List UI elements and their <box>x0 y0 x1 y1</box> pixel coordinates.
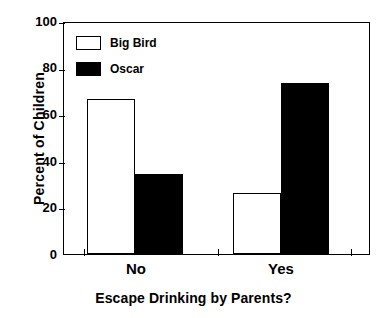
y-axis-tick-labels: 100 80 60 40 20 0 <box>21 0 57 318</box>
bar-oscar-no <box>135 174 183 254</box>
legend-label-oscar: Oscar <box>110 62 144 76</box>
x-tick-mark-left <box>84 249 85 256</box>
y-tick-mark-60 <box>59 116 65 117</box>
bar-bigbird-no <box>87 99 135 254</box>
open-square-icon <box>76 36 101 50</box>
legend-item-oscar: Oscar <box>76 58 157 80</box>
x-tick-mark-right <box>351 249 352 256</box>
bar-chart: Percent of Children 100 80 60 40 20 0 Bi <box>0 0 387 318</box>
y-tick-label-20: 20 <box>23 201 57 214</box>
x-tick-mark-mid <box>218 249 219 256</box>
y-tick-mark-80 <box>59 70 65 71</box>
y-tick-label-40: 40 <box>23 155 57 168</box>
bar-oscar-yes <box>281 83 329 254</box>
y-tick-mark-40 <box>59 163 65 164</box>
y-tick-label-60: 60 <box>23 108 57 121</box>
y-tick-mark-20 <box>59 209 65 210</box>
x-tick-label-no: No <box>96 260 176 277</box>
filled-square-icon <box>76 62 101 76</box>
y-tick-label-80: 80 <box>23 61 57 74</box>
legend: Big Bird Oscar <box>76 32 157 84</box>
x-axis-title: Escape Drinking by Parents? <box>0 290 387 306</box>
plot-area: Big Bird Oscar <box>63 22 370 255</box>
y-tick-label-0: 0 <box>23 248 57 261</box>
x-tick-label-yes: Yes <box>241 260 321 277</box>
legend-label-big-bird: Big Bird <box>110 36 157 50</box>
legend-item-big-bird: Big Bird <box>76 32 157 54</box>
bar-bigbird-yes <box>233 193 281 254</box>
y-tick-mark-100 <box>59 23 65 24</box>
y-tick-label-100: 100 <box>23 15 57 28</box>
